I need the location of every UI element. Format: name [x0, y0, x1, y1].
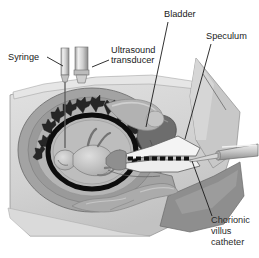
- label-ultrasound-transducer-line1: Ultrasound: [111, 45, 155, 55]
- chorionic-villus-sampling-figure: Syringe Ultrasound transducer Bladder Sp…: [0, 0, 259, 258]
- label-chorionic-villus-catheter-line1: Chorionic: [211, 215, 250, 225]
- label-chorionic-villus-catheter-line2: villus: [211, 226, 232, 236]
- transducer-collar: [74, 70, 89, 75]
- label-chorionic-villus-catheter-line3: catheter: [211, 237, 244, 247]
- label-bladder: Bladder: [164, 9, 196, 19]
- transducer-body: [75, 47, 88, 71]
- label-syringe: Syringe: [8, 52, 39, 62]
- syringe-barrel: [61, 48, 69, 75]
- transducer-head: [76, 75, 87, 83]
- label-speculum: Speculum: [206, 31, 247, 41]
- label-ultrasound-transducer-line2: transducer: [111, 55, 154, 65]
